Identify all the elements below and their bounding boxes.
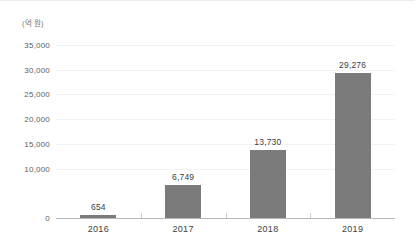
x-axis-category-label: 2016 (88, 224, 109, 234)
x-axis-category-label: 2019 (342, 224, 363, 234)
y-axis-tick-label: 30,000 (4, 65, 50, 74)
bar-value-label: 29,276 (339, 60, 366, 70)
x-axis-category-label: 2017 (173, 224, 194, 234)
y-axis-tick-label: 10,000 (4, 164, 50, 173)
y-axis-tick-label: 25,000 (4, 90, 50, 99)
bar-group: 29,276 (335, 35, 371, 218)
y-axis-tick-label: 15,000 (4, 139, 50, 148)
bar-value-label: 6,749 (172, 172, 194, 182)
bar (165, 185, 201, 218)
bar-value-label: 654 (91, 202, 106, 212)
bars-container: 6546,74913,73029,276 (56, 35, 395, 218)
bar (250, 150, 286, 218)
bar (80, 215, 116, 218)
bar-value-label: 13,730 (254, 137, 281, 147)
bar-group: 6,749 (165, 35, 201, 218)
top-divider (0, 0, 415, 1)
bar (335, 73, 371, 218)
y-axis-tick-label: 0 (4, 214, 50, 223)
bar-group: 13,730 (250, 35, 286, 218)
y-axis-tick-label: 20,000 (4, 115, 50, 124)
x-axis-category-labels: 2016201720182019 (56, 224, 395, 240)
bar-group: 654 (80, 35, 116, 218)
y-axis-tick-label: 35,000 (4, 40, 50, 49)
bar-chart: (억 원) 010,00015,00020,00025,00030,00035,… (0, 0, 415, 252)
y-axis-unit-caption: (억 원) (22, 17, 44, 28)
x-axis-line (56, 218, 395, 219)
x-axis-category-label: 2018 (257, 224, 278, 234)
